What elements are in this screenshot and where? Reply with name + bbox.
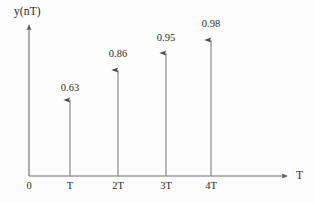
x-tick-label-2: 2T <box>112 181 124 192</box>
x-tick-label-0: 0 <box>26 181 31 192</box>
x-axis-label: T <box>296 170 303 182</box>
stem-plot-figure: y(nT) T 0 T 2T 3T 4T 0.63 0.86 0.95 0.98 <box>0 0 314 203</box>
y-axis-label: y(nT) <box>14 6 41 18</box>
stem-value-label-1: 0.63 <box>61 83 79 94</box>
plot-canvas <box>0 0 314 203</box>
stem-value-label-4: 0.98 <box>202 19 220 30</box>
stem-value-label-3: 0.95 <box>157 33 175 44</box>
x-tick-label-4: 4T <box>205 181 217 192</box>
x-tick-label-1: T <box>67 181 73 192</box>
x-tick-label-3: 3T <box>160 181 172 192</box>
stem-value-label-2: 0.86 <box>109 49 127 60</box>
